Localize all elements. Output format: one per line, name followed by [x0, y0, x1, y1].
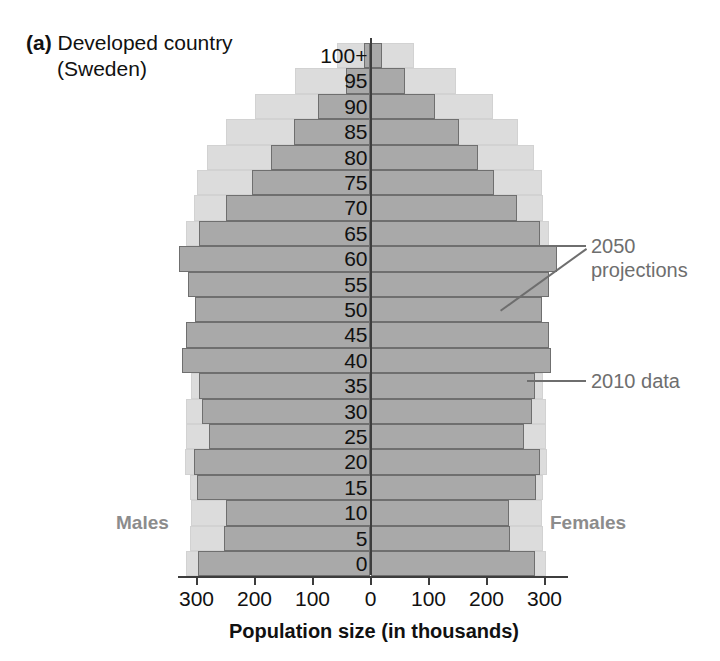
age-axis-label: 20	[294, 449, 368, 474]
age-axis-label: 75	[294, 170, 368, 195]
x-axis-tick	[544, 578, 546, 585]
bar-2010-data-female	[371, 322, 550, 347]
leader-line-2050-upper	[520, 245, 586, 247]
x-axis-tick-label: 200	[457, 587, 517, 611]
bar-2010-data-female	[371, 43, 383, 68]
bar-2010-data-female	[371, 145, 478, 170]
bar-2010-data-female	[371, 373, 535, 398]
age-axis-label: 15	[294, 475, 368, 500]
age-axis-label: 65	[294, 221, 368, 246]
x-axis-line	[178, 576, 568, 578]
age-axis-label: 5	[294, 526, 368, 551]
x-axis-tick-label: 300	[167, 587, 227, 611]
x-axis-tick-label: 0	[341, 587, 401, 611]
age-axis-label: 60	[294, 246, 368, 271]
age-axis-label: 100+	[294, 43, 368, 68]
age-axis-label: 95	[294, 68, 368, 93]
bar-2010-data-female	[371, 246, 558, 271]
bar-2010-data-female	[371, 170, 495, 195]
x-axis-tick-label: 300	[515, 587, 575, 611]
age-axis-label: 80	[294, 145, 368, 170]
x-axis-tick-label: 200	[225, 587, 285, 611]
bar-2010-data-female	[371, 551, 535, 576]
age-axis-label: 10	[294, 500, 368, 525]
age-axis-label: 90	[294, 94, 368, 119]
bar-2010-data-female	[371, 449, 540, 474]
bar-2010-data-female	[371, 475, 536, 500]
x-axis-tick	[486, 578, 488, 585]
x-axis-tick-label: 100	[399, 587, 459, 611]
age-axis-label: 85	[294, 119, 368, 144]
annotation-2050-line1: 2050	[591, 234, 688, 258]
annotation-2050-projections: 2050 projections	[591, 234, 688, 282]
bar-2010-data-female	[371, 348, 552, 373]
age-axis-label: 70	[294, 195, 368, 220]
age-axis-label: 45	[294, 322, 368, 347]
bar-2010-data-female	[371, 500, 509, 525]
x-axis-tick-label: 100	[283, 587, 343, 611]
leader-line-2010	[527, 380, 586, 382]
x-axis-caption: Population size (in thousands)	[178, 620, 570, 643]
age-axis-label: 55	[294, 272, 368, 297]
x-axis-tick	[312, 578, 314, 585]
age-axis-label: 30	[294, 399, 368, 424]
females-label: Females	[550, 512, 626, 534]
bar-2010-data-female	[371, 526, 510, 551]
bar-2010-data-female	[371, 399, 532, 424]
bar-2010-data-female	[371, 68, 406, 93]
x-axis-tick	[196, 578, 198, 585]
age-axis-label: 35	[294, 373, 368, 398]
x-axis-tick	[428, 578, 430, 585]
bar-2010-data-female	[371, 119, 459, 144]
bar-2010-data-female	[371, 94, 436, 119]
population-pyramid-chart: Males Females 2050 projections 2010 data…	[0, 0, 720, 661]
bar-2010-data-female	[371, 195, 517, 220]
males-label: Males	[116, 512, 169, 534]
center-axis-line	[370, 38, 372, 575]
age-axis-label: 0	[294, 551, 368, 576]
x-axis-tick	[254, 578, 256, 585]
bar-2010-data-female	[371, 424, 525, 449]
x-axis-tick	[370, 578, 372, 585]
annotation-2010-data: 2010 data	[591, 369, 680, 393]
age-axis-label: 40	[294, 348, 368, 373]
age-axis-label: 25	[294, 424, 368, 449]
annotation-2050-line2: projections	[591, 258, 688, 282]
age-axis-label: 50	[294, 297, 368, 322]
bar-2010-data-female	[371, 221, 540, 246]
